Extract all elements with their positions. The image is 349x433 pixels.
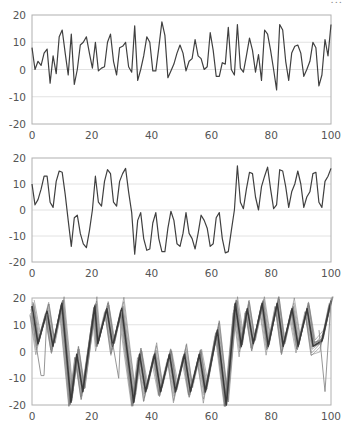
x-tick-label: 100: [321, 410, 341, 422]
x-tick-label: 0: [29, 267, 36, 279]
y-tick-label: -20: [9, 256, 26, 268]
x-tick-label: 60: [205, 410, 218, 422]
chart-panel-2: 20100-10-20020406080100: [0, 143, 349, 288]
y-tick-label: -10: [9, 230, 26, 242]
x-tick-label: 20: [85, 410, 98, 422]
y-tick-label: -10: [9, 91, 26, 103]
ensemble-chart-3: 20100-10-20020406080100: [0, 285, 349, 433]
chart-panel-3: 20100-10-20020406080100: [0, 285, 349, 433]
y-tick-label: -20: [9, 399, 26, 411]
ensemble-trace: [32, 301, 331, 405]
x-tick-label: 20: [85, 129, 98, 141]
x-tick-label: 100: [321, 129, 341, 141]
x-tick-label: 100: [321, 267, 341, 279]
x-tick-label: 40: [145, 129, 158, 141]
y-tick-label: 20: [13, 9, 26, 21]
x-tick-label: 20: [85, 267, 98, 279]
y-tick-label: -20: [9, 118, 26, 130]
series-line: [32, 22, 331, 90]
x-tick-label: 0: [29, 129, 36, 141]
ensemble-trace: [31, 305, 330, 406]
y-tick-label: 20: [13, 152, 26, 164]
y-tick-label: 10: [13, 319, 26, 331]
y-tick-label: 10: [13, 36, 26, 48]
x-tick-label: 80: [265, 267, 278, 279]
line-chart-2: 20100-10-20020406080100: [0, 143, 349, 288]
x-tick-label: 60: [205, 129, 218, 141]
x-tick-label: 60: [205, 267, 218, 279]
x-tick-label: 40: [145, 410, 158, 422]
y-tick-label: 0: [19, 346, 26, 358]
y-tick-label: 0: [19, 204, 26, 216]
ensemble-trace: [31, 304, 330, 406]
x-tick-label: 0: [29, 410, 36, 422]
ensemble-mean-line: [32, 301, 331, 405]
y-tick-label: 0: [19, 64, 26, 76]
y-tick-label: -10: [9, 372, 26, 384]
chart-panel-1: 20100-10-20020406080100: [0, 0, 349, 145]
x-tick-label: 80: [265, 129, 278, 141]
line-chart-1: 20100-10-20020406080100: [0, 0, 349, 145]
ensemble-trace: [30, 303, 329, 406]
y-tick-label: 20: [13, 292, 26, 304]
x-tick-label: 80: [265, 410, 278, 422]
y-tick-label: 10: [13, 178, 26, 190]
ensemble-trace: [30, 305, 329, 406]
x-tick-label: 40: [145, 267, 158, 279]
